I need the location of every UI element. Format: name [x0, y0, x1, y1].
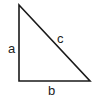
side-c-label: c: [57, 31, 64, 46]
right-triangle-shape: [19, 5, 90, 81]
side-a-label: a: [8, 41, 16, 56]
side-b-label: b: [48, 83, 55, 98]
triangle-diagram: a c b: [0, 0, 103, 101]
